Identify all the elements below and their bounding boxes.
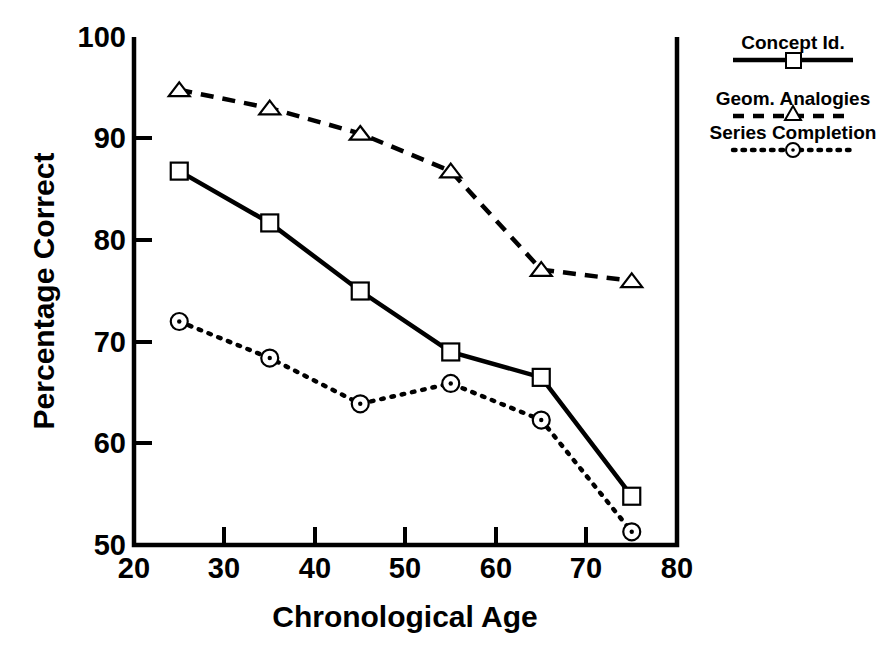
- x-tick-label: 40: [299, 552, 331, 584]
- square-marker-icon: [442, 343, 459, 360]
- data-point[interactable]: [442, 375, 459, 392]
- legend-item-concept-id[interactable]: Concept Id.: [733, 32, 853, 68]
- circle-dot-center-icon: [268, 356, 272, 360]
- square-marker-icon: [261, 214, 278, 231]
- legend: Concept Id. Geom. Analogies Series Compl…: [710, 32, 877, 157]
- y-tick-label: 60: [94, 427, 126, 459]
- data-point[interactable]: [352, 283, 369, 300]
- x-tick-label: 60: [480, 552, 512, 584]
- data-point[interactable]: [171, 313, 188, 330]
- legend-item-series-completion[interactable]: Series Completion: [710, 122, 877, 157]
- x-axis-ticks: [224, 527, 586, 545]
- legend-item-geom-analogies[interactable]: Geom. Analogies: [716, 88, 871, 120]
- data-point[interactable]: [171, 163, 188, 180]
- square-marker-icon: [171, 163, 188, 180]
- data-point[interactable]: [621, 273, 642, 287]
- x-tick-labels: 20 30 40 50 60 70 80: [118, 552, 693, 584]
- square-marker-icon: [623, 488, 640, 505]
- legend-item-label: Concept Id.: [741, 32, 844, 53]
- y-axis-ticks: [134, 138, 152, 443]
- data-point[interactable]: [259, 101, 280, 115]
- y-tick-label: 90: [94, 122, 126, 154]
- triangle-marker-icon: [259, 101, 280, 115]
- circle-dot-center-icon: [449, 381, 453, 385]
- series-line: [179, 321, 632, 531]
- series-markers-group: [169, 82, 643, 540]
- series-lines-group: [179, 90, 632, 532]
- x-tick-label: 80: [661, 552, 693, 584]
- x-axis-title: Chronological Age: [272, 600, 538, 633]
- y-tick-label: 100: [78, 21, 126, 53]
- triangle-marker-icon: [621, 273, 642, 287]
- circle-dot-center-icon: [791, 148, 795, 152]
- legend-item-label: Series Completion: [710, 122, 877, 143]
- x-tick-label: 30: [208, 552, 240, 584]
- data-point[interactable]: [623, 523, 640, 540]
- circle-dot-center-icon: [539, 418, 543, 422]
- line-chart: 100 90 80 70 60 50 20 30 40 50 60 70 80 …: [0, 0, 882, 653]
- x-tick-label: 70: [570, 552, 602, 584]
- square-marker-icon: [352, 283, 369, 300]
- data-point[interactable]: [623, 488, 640, 505]
- y-tick-label: 80: [94, 224, 126, 256]
- y-tick-labels: 100 90 80 70 60 50: [78, 21, 126, 561]
- data-point[interactable]: [261, 214, 278, 231]
- circle-dot-center-icon: [177, 319, 181, 323]
- data-point[interactable]: [533, 369, 550, 386]
- x-tick-label: 20: [118, 552, 150, 584]
- data-point[interactable]: [533, 412, 550, 429]
- series-line: [179, 171, 632, 496]
- square-marker-icon: [533, 369, 550, 386]
- x-tick-label: 50: [389, 552, 421, 584]
- figure-container: 100 90 80 70 60 50 20 30 40 50 60 70 80 …: [0, 0, 882, 653]
- series-line: [179, 90, 632, 281]
- square-marker-icon: [786, 53, 801, 68]
- data-point[interactable]: [442, 343, 459, 360]
- data-point[interactable]: [352, 395, 369, 412]
- y-tick-label: 70: [94, 326, 126, 358]
- circle-dot-center-icon: [630, 530, 634, 534]
- data-point[interactable]: [261, 350, 278, 367]
- y-axis-title: Percentage Correct: [27, 153, 60, 430]
- circle-dot-center-icon: [358, 402, 362, 406]
- plot-frame: [134, 37, 677, 545]
